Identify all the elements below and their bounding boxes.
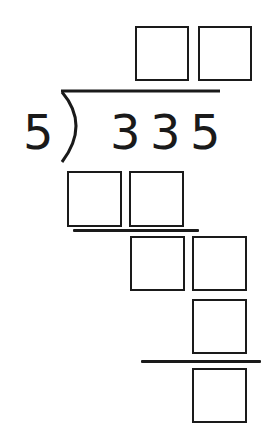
subtraction-line-1	[73, 229, 199, 232]
step2-remainder-box-2[interactable]	[192, 236, 247, 291]
dividend-digit-tens: 3	[150, 108, 181, 156]
divisor: 5	[23, 108, 54, 156]
dividend-digit-hundreds: 3	[110, 108, 141, 156]
step2-remainder-box-1[interactable]	[130, 236, 185, 291]
dividend-digit-ones: 5	[190, 108, 221, 156]
step1-product-box-1[interactable]	[67, 171, 122, 227]
subtraction-line-2	[141, 360, 261, 363]
step1-product-box-2[interactable]	[129, 171, 184, 227]
step3-product-box[interactable]	[192, 299, 247, 354]
final-remainder-box[interactable]	[192, 368, 247, 423]
